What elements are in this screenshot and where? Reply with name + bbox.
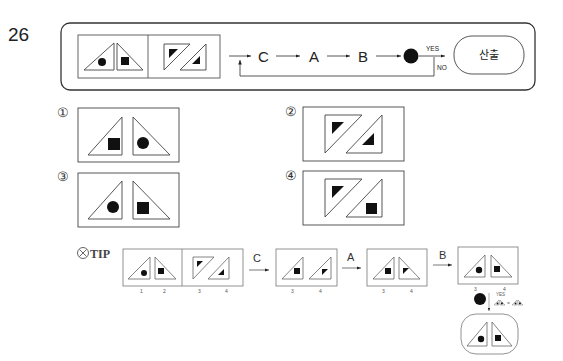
option-4[interactable]: ④ [285,168,404,225]
svg-text:2: 2 [163,288,166,294]
tip-step-a: A [347,251,355,263]
option-1[interactable]: ① [57,105,179,162]
decision-node [404,49,419,64]
step-a: A [309,48,319,65]
svg-text:1: 1 [140,288,143,294]
tip-step-b: B [439,249,446,261]
option-3-label: ③ [57,169,69,184]
triangle-with-black-triangle-bottom [180,44,206,70]
option-2-label: ② [285,104,297,119]
tip-label: TIP [90,247,110,261]
problem-number: 26 [8,24,29,45]
step-c: C [258,48,269,65]
option-1-label: ① [57,105,69,120]
svg-text:4: 4 [319,288,322,294]
step-b: B [358,48,368,65]
svg-text:4: 4 [225,288,228,294]
svg-text:=: = [507,300,510,306]
tip-initial-box: 1 2 3 4 [123,249,243,294]
diagram-canvas: 26 C A B YES NO 산출 ① [0,0,563,361]
tip-header: TIP [78,247,111,261]
tip-after-c-box: 3 4 [276,249,337,294]
svg-text:3: 3 [382,288,385,294]
tip-after-b-box: 3 4 [458,247,518,292]
output-label: 산출 [479,49,499,61]
input-box [78,35,220,78]
option-4-label: ④ [285,168,297,183]
svg-text:3: 3 [198,288,201,294]
svg-text:3: 3 [291,288,294,294]
no-label: NO [437,64,447,71]
option-3[interactable]: ③ [57,169,179,227]
triangle-with-square [117,43,143,70]
option-2[interactable]: ② [285,104,404,161]
tip-equality-note: = [494,300,523,306]
tip-decision-node [474,293,486,305]
tip-after-a-box: 3 4 [367,249,427,294]
tip-output-pill [461,314,518,354]
svg-text:4: 4 [410,288,413,294]
triangle-with-black-triangle-top [164,44,190,70]
triangle-with-circle [84,43,114,70]
tip-step-c: C [253,252,261,264]
svg-text:3: 3 [474,286,477,292]
yes-label: YES [426,45,440,52]
tip-yes-label: YES [496,292,505,297]
problem-frame [61,23,535,90]
